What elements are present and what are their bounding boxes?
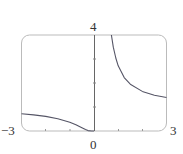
left-branch-curve [22,114,95,131]
x-zero-label: 0 [90,137,97,152]
x-max-label: 3 [170,123,177,138]
right-branch-curve [111,35,166,98]
x-min-label: −3 [1,123,15,138]
y-max-label: 4 [90,19,97,34]
function-plot: −3 0 3 4 [0,0,183,154]
